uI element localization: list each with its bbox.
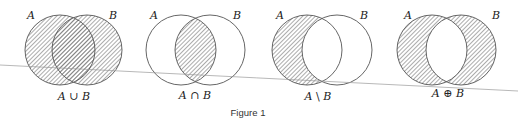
operation-label: A ∩ B xyxy=(178,89,211,102)
set-a-label: A xyxy=(403,9,412,22)
set-minus-symbol: \ xyxy=(316,90,320,103)
set-b-label: B xyxy=(108,9,117,22)
diagram-union: A B A ∪ B xyxy=(25,9,122,103)
shaded-region-union xyxy=(25,15,122,85)
diagram-symmetric-difference: A B A ⊕ B xyxy=(390,0,518,125)
diagram-difference: A B A \ B xyxy=(272,9,372,103)
set-b-label: B xyxy=(232,9,241,22)
diagram-intersection: A B A ∩ B xyxy=(146,9,245,102)
operation-label: A \ B xyxy=(304,90,332,103)
oplus-symbol: ⊕ xyxy=(443,87,452,100)
set-b-label: B xyxy=(491,9,500,22)
operation-label: A ⊕ B xyxy=(431,87,464,100)
set-a-label: A xyxy=(26,9,35,22)
union-symbol: ∪ xyxy=(69,90,78,103)
operation-label: A ∪ B xyxy=(57,90,90,103)
set-a-label: A xyxy=(275,9,284,22)
venn-figure: A B A ∪ B A B A ∩ B A B A \ B xyxy=(0,0,518,125)
set-b-label: B xyxy=(359,9,368,22)
intersection-symbol: ∩ xyxy=(190,89,199,102)
set-a-label: A xyxy=(149,9,158,22)
figure-caption: Figure 1 xyxy=(231,107,266,118)
